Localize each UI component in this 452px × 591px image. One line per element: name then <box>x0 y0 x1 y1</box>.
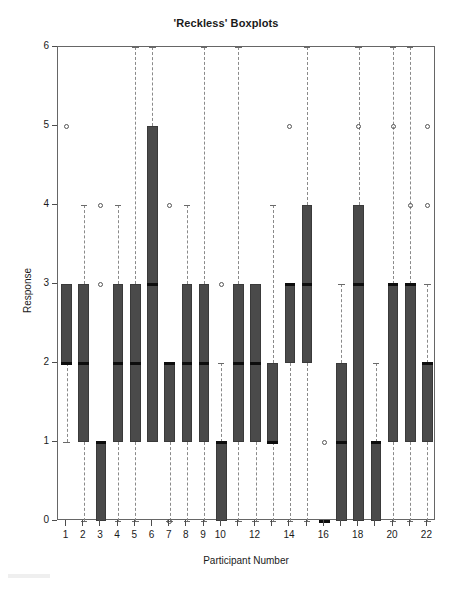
whisker-upper <box>135 47 136 284</box>
whisker-cap-upper <box>201 47 207 48</box>
boxplot-22[interactable] <box>419 47 436 519</box>
x-tick-mark <box>271 520 272 526</box>
boxplot-5[interactable] <box>127 47 144 519</box>
boxplot-15[interactable] <box>299 47 316 519</box>
box-iqr[interactable] <box>96 442 107 521</box>
box-iqr[interactable] <box>371 442 382 521</box>
whisker-cap-upper <box>373 363 379 364</box>
box-iqr[interactable] <box>422 363 433 442</box>
y-tick-label: 3 <box>43 276 49 289</box>
outlier-point <box>322 440 327 445</box>
whisker-lower <box>273 442 274 521</box>
boxplot-10[interactable] <box>213 47 230 519</box>
x-tick-label: 10 <box>206 529 234 540</box>
boxplot-4[interactable] <box>110 47 127 519</box>
x-axis: 12345678910121416182022 <box>57 520 435 560</box>
page-artifact <box>8 574 50 578</box>
x-tick-mark <box>374 520 375 526</box>
x-tick-mark <box>357 520 358 526</box>
whisker-cap-upper <box>115 205 121 206</box>
whisker-upper <box>410 47 411 284</box>
whisker-cap-upper <box>424 284 430 285</box>
outlier-point <box>64 124 69 129</box>
median-line <box>182 362 193 365</box>
x-tick-mark <box>323 520 324 526</box>
y-tick-label: 2 <box>43 355 49 368</box>
outlier-point <box>425 203 430 208</box>
whisker-cap-lower <box>63 442 69 443</box>
x-tick-mark <box>220 520 221 526</box>
boxplot-20[interactable] <box>384 47 401 519</box>
outlier-point <box>356 124 361 129</box>
boxplot-8[interactable] <box>178 47 195 519</box>
boxplot-2[interactable] <box>75 47 92 519</box>
boxplot-21[interactable] <box>402 47 419 519</box>
boxplot-17[interactable] <box>333 47 350 519</box>
whisker-upper <box>341 284 342 363</box>
whisker-cap-upper <box>355 47 361 48</box>
x-tick-mark <box>168 520 169 526</box>
boxplot-19[interactable] <box>367 47 384 519</box>
whisker-cap-upper <box>132 47 138 48</box>
boxplot-16[interactable] <box>316 47 333 519</box>
box-iqr[interactable] <box>216 442 227 521</box>
x-tick-mark <box>392 520 393 526</box>
x-tick-mark <box>409 520 410 526</box>
outlier-point <box>287 124 292 129</box>
x-tick-mark <box>254 520 255 526</box>
boxplot-18[interactable] <box>350 47 367 519</box>
whisker-upper <box>427 284 428 363</box>
whisker-cap-upper <box>304 47 310 48</box>
boxplot-3[interactable] <box>92 47 109 519</box>
whisker-cap-upper <box>184 205 190 206</box>
y-axis: 0123456 <box>0 46 57 520</box>
box-iqr[interactable] <box>267 363 278 442</box>
median-line <box>199 362 210 365</box>
whisker-lower <box>256 442 257 521</box>
x-tick-label: 14 <box>275 529 303 540</box>
x-tick-mark <box>65 520 66 526</box>
box-iqr[interactable] <box>285 284 296 363</box>
boxplot-11[interactable] <box>230 47 247 519</box>
median-line <box>336 441 347 444</box>
median-line <box>78 362 89 365</box>
median-line <box>285 283 296 286</box>
x-tick-label: 20 <box>378 529 406 540</box>
box-iqr[interactable] <box>353 205 364 521</box>
whisker-cap-upper <box>390 47 396 48</box>
x-tick-mark <box>117 520 118 526</box>
boxplot-12[interactable] <box>247 47 264 519</box>
whisker-cap-upper <box>235 47 241 48</box>
whisker-lower <box>187 442 188 521</box>
x-tick-mark <box>426 520 427 526</box>
whisker-upper <box>118 205 119 284</box>
median-line <box>61 362 72 365</box>
whisker-cap-upper <box>270 205 276 206</box>
boxplot-6[interactable] <box>144 47 161 519</box>
whisker-upper <box>204 47 205 284</box>
boxplot-series <box>58 47 434 519</box>
outlier-point <box>391 124 396 129</box>
whisker-upper <box>221 363 222 442</box>
median-line <box>130 362 141 365</box>
chart-page: 'Reckless' Boxplots Response 0123456 123… <box>0 0 452 591</box>
box-iqr[interactable] <box>388 284 399 442</box>
y-tick-label: 6 <box>43 39 49 52</box>
whisker-cap-upper <box>407 47 413 48</box>
box-iqr[interactable] <box>405 284 416 442</box>
whisker-upper <box>84 205 85 284</box>
x-axis-label: Participant Number <box>57 555 435 566</box>
boxplot-14[interactable] <box>281 47 298 519</box>
box-iqr[interactable] <box>61 284 72 363</box>
median-line <box>353 283 364 286</box>
whisker-lower <box>410 442 411 521</box>
whisker-lower <box>84 442 85 521</box>
y-tick-label: 1 <box>43 434 49 447</box>
boxplot-1[interactable] <box>58 47 75 519</box>
boxplot-7[interactable] <box>161 47 178 519</box>
boxplot-13[interactable] <box>264 47 281 519</box>
boxplot-9[interactable] <box>195 47 212 519</box>
box-iqr[interactable] <box>164 363 175 442</box>
median-line <box>164 362 175 365</box>
median-line <box>422 362 433 365</box>
